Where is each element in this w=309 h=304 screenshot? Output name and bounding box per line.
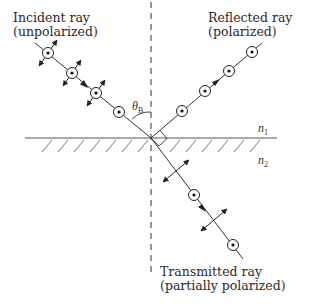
n2-symbol: n2 <box>258 153 268 169</box>
brewster-angle-diagram: Incident ray (unpolarized) Reflected ray… <box>0 0 309 304</box>
dot-circle-icon <box>43 48 54 59</box>
dot-circle-icon <box>247 47 258 58</box>
double-arrow-icon <box>201 209 227 231</box>
dot-circle-icon <box>228 240 239 251</box>
dot-circle-icon <box>114 107 125 118</box>
incident-ray-label: Incident ray (unpolarized) <box>13 11 98 39</box>
dot-circle-icon <box>200 86 211 97</box>
dot-circle-icon <box>67 68 78 79</box>
reflected-label-line2: (polarized) <box>208 25 292 39</box>
reflected-label-line1: Reflected ray <box>208 11 292 25</box>
incident-ray <box>35 40 151 138</box>
n1-symbol: n1 <box>258 121 268 137</box>
transmitted-ray-label: Transmitted ray (partially polarized) <box>160 265 286 293</box>
transmitted-label-line1: Transmitted ray <box>160 265 286 279</box>
dot-circle-icon <box>189 190 200 201</box>
transmitted-label-line2: (partially polarized) <box>160 279 286 293</box>
theta-b-symbol: θB <box>132 99 143 115</box>
transmitted-ray <box>151 138 243 259</box>
reflected-ray-label: Reflected ray (polarized) <box>208 11 292 39</box>
reflected-ray <box>151 43 262 138</box>
double-arrow-icon <box>163 160 189 182</box>
dot-circle-icon <box>224 66 235 77</box>
dot-circle-icon <box>177 106 188 117</box>
diagram-canvas <box>0 0 309 304</box>
incident-label-line1: Incident ray <box>13 11 98 25</box>
dot-circle-icon <box>91 88 102 99</box>
incident-label-line2: (unpolarized) <box>13 25 98 39</box>
